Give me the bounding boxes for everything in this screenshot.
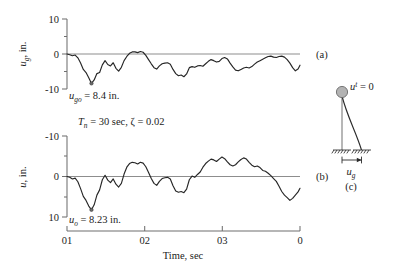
panel-b-annotation-rest: = 8.23 in. — [78, 214, 121, 225]
panel-a-annotation-rest: = 8.4 in. — [82, 90, 120, 101]
schematic-ground-label-sub: g — [352, 171, 356, 180]
panel-b-peak-marker — [90, 208, 93, 211]
panel-b-ylabel-group: u, in. — [17, 166, 28, 187]
panel-a: 10 0 -10 ug, in. ugo = 8.4 in. (a) — [17, 14, 328, 104]
panel-a-ylabel-unit: , in. — [17, 42, 28, 58]
panel-c-label: (c) — [345, 181, 357, 193]
panel-b-ylabel-unit: , in. — [17, 166, 28, 182]
panel-a-ytick-label-bot: -10 — [45, 84, 59, 95]
panel-b-ylabel: u, in. — [17, 166, 28, 187]
schematic-support-left — [332, 150, 351, 153]
system-parameters: Tn = 30 sec, ζ = 0.02 — [78, 116, 164, 130]
schematic-ground-label: ug — [347, 166, 356, 180]
xtick-label-3: 0 — [297, 235, 302, 246]
xtick-label-2: 03 — [217, 235, 228, 246]
panel-a-ytick-label-mid: 0 — [54, 49, 59, 60]
panel-c-schematic: ut = 0 — [332, 80, 374, 193]
panel-b-ytick-label-top: -10 — [45, 131, 59, 142]
panel-a-ylabel: ug, in. — [17, 42, 31, 67]
panel-a-label: (a) — [316, 49, 328, 61]
schematic-dimension-ug — [342, 157, 362, 164]
panel-a-ylabel-group: ug, in. — [17, 42, 31, 67]
xtick-label-0: 01 — [62, 235, 73, 246]
panel-a-peak-marker — [90, 82, 93, 85]
schematic-mass-label: ut = 0 — [350, 80, 374, 92]
panel-b-ytick-label-mid: 0 — [54, 171, 59, 182]
panel-b-data-curve — [67, 157, 300, 210]
panel-a-ytick-label-top: 10 — [49, 14, 60, 25]
panel-b-label: (b) — [316, 171, 329, 183]
param-tn-rest: = 30 sec, — [88, 116, 131, 127]
panel-a-annotation: ugo = 8.4 in. — [69, 90, 119, 104]
schematic-lumped-mass — [336, 86, 347, 97]
schematic-deflected-column — [342, 96, 362, 150]
x-axis: 01 02 03 0 Time, sec — [62, 226, 303, 261]
schematic-support-right — [352, 150, 371, 153]
xtick-label-1: 02 — [139, 235, 150, 246]
xaxis-label: Time, sec — [163, 250, 204, 261]
panel-b-ytick-label-bot: 10 — [49, 212, 60, 223]
figure-svg: 10 0 -10 ug, in. ugo = 8.4 in. (a) Tn = … — [0, 0, 403, 269]
panel-b-annotation: uo = 8.23 in. — [69, 214, 121, 228]
figure-container: 10 0 -10 ug, in. ugo = 8.4 in. (a) Tn = … — [0, 0, 403, 269]
schematic-dimension-arrowhead — [357, 158, 362, 162]
panel-a-data-curve — [67, 52, 300, 84]
param-zeta-rest: = 0.02 — [135, 116, 165, 127]
schematic-mass-label-rest: = 0 — [357, 81, 373, 92]
panel-b: -10 0 10 u, in. uo = 8.23 in. (b) — [17, 131, 329, 228]
